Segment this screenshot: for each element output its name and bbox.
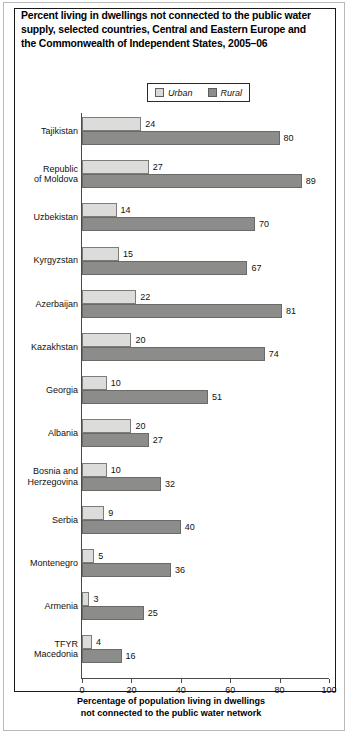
category-label: Georgia (0, 385, 78, 396)
x-tick-label-20: 20 (126, 685, 136, 695)
bar-value-urban: 27 (153, 162, 163, 172)
bar-rural (82, 347, 265, 361)
bar-urban (82, 549, 94, 563)
bar-value-urban: 10 (111, 465, 121, 475)
category-label: Tajikistan (0, 126, 78, 137)
bar-rural (82, 131, 280, 145)
category-label-line: Tajikistan (0, 126, 78, 137)
category-label: Uzbekistan (0, 212, 78, 223)
bar-urban (82, 635, 92, 649)
bar-urban (82, 463, 107, 477)
bar-value-rural: 74 (269, 349, 279, 359)
bar-value-rural: 25 (148, 608, 158, 618)
x-tick-60 (230, 679, 231, 683)
bar-urban (82, 376, 107, 390)
category-label-line: Republic (0, 164, 78, 175)
category-label: Armenia (0, 601, 78, 612)
bar-value-urban: 15 (123, 249, 133, 259)
category-label: Albania (0, 428, 78, 439)
bar-group: Azerbaijan2281 (0, 290, 349, 318)
bar-rural (82, 261, 247, 275)
bar-value-rural: 16 (126, 651, 136, 661)
bar-rural (82, 174, 302, 188)
x-tick-label-80: 80 (275, 685, 285, 695)
bar-rural (82, 520, 181, 534)
category-label-line: Azerbaijan (0, 299, 78, 310)
bar-value-urban: 24 (145, 119, 155, 129)
bar-rural (82, 606, 144, 620)
bar-group: Bosnia andHerzegovina1032 (0, 463, 349, 491)
bar-value-urban: 3 (93, 594, 98, 604)
category-label: Kyrgyzstan (0, 255, 78, 266)
bar-group: Serbia940 (0, 506, 349, 534)
bar-urban (82, 419, 131, 433)
bar-urban (82, 203, 117, 217)
bar-value-urban: 9 (108, 508, 113, 518)
bar-group: Uzbekistan1470 (0, 203, 349, 231)
bar-urban (82, 592, 89, 606)
bar-group: Kazakhstan2074 (0, 333, 349, 361)
category-label-line: Kazakhstan (0, 342, 78, 353)
x-axis-caption-line2: not connected to the public water networ… (10, 708, 332, 720)
bar-group: Montenegro536 (0, 549, 349, 577)
x-tick-label-60: 60 (225, 685, 235, 695)
x-axis-caption: Percentage of population living in dwell… (10, 696, 332, 719)
x-tick-label-100: 100 (321, 685, 336, 695)
bar-value-rural: 32 (165, 479, 175, 489)
bar-urban (82, 160, 149, 174)
bar-group: Armenia325 (0, 592, 349, 620)
x-axis-line (81, 678, 329, 679)
bar-group: Albania2027 (0, 419, 349, 447)
bar-value-urban: 22 (140, 292, 150, 302)
plot-area: 020406080100 Tajikistan2480Republicof Mo… (0, 0, 349, 735)
x-tick-20 (131, 679, 132, 683)
category-label-line: Georgia (0, 385, 78, 396)
bar-value-rural: 27 (153, 435, 163, 445)
bar-urban (82, 290, 136, 304)
x-tick-100 (329, 679, 330, 683)
bar-rural (82, 217, 255, 231)
category-label: Azerbaijan (0, 299, 78, 310)
bar-value-rural: 70 (259, 219, 269, 229)
category-label-line: Herzegovina (0, 477, 78, 488)
bar-urban (82, 117, 141, 131)
category-label: Bosnia andHerzegovina (0, 466, 78, 487)
category-label-line: Bosnia and (0, 466, 78, 477)
bar-value-urban: 10 (111, 378, 121, 388)
bar-rural (82, 304, 282, 318)
x-axis-caption-line1: Percentage of population living in dwell… (10, 696, 332, 708)
bar-value-rural: 36 (175, 565, 185, 575)
category-label: Republicof Moldova (0, 164, 78, 185)
bar-rural (82, 390, 208, 404)
category-label: Montenegro (0, 558, 78, 569)
x-tick-label-0: 0 (79, 685, 84, 695)
bar-urban (82, 506, 104, 520)
category-label-line: Albania (0, 428, 78, 439)
category-label-line: Serbia (0, 515, 78, 526)
bar-rural (82, 477, 161, 491)
x-tick-40 (181, 679, 182, 683)
x-tick-0 (82, 679, 83, 683)
bar-value-urban: 20 (135, 335, 145, 345)
category-label: Serbia (0, 515, 78, 526)
bar-urban (82, 333, 131, 347)
bar-group: Georgia1051 (0, 376, 349, 404)
bar-group: Tajikistan2480 (0, 117, 349, 145)
bar-group: Republicof Moldova2789 (0, 160, 349, 188)
bar-group: Kyrgyzstan1567 (0, 247, 349, 275)
category-label: TFYRMacedonia (0, 639, 78, 660)
category-label-line: Armenia (0, 601, 78, 612)
bar-value-rural: 81 (286, 306, 296, 316)
bar-value-rural: 67 (251, 263, 261, 273)
category-label: Kazakhstan (0, 342, 78, 353)
bar-value-rural: 40 (185, 522, 195, 532)
bar-group: TFYRMacedonia416 (0, 635, 349, 663)
bar-value-rural: 51 (212, 392, 222, 402)
category-label-line: Macedonia (0, 649, 78, 660)
bar-urban (82, 247, 119, 261)
bar-value-rural: 89 (306, 176, 316, 186)
bar-value-urban: 20 (135, 421, 145, 431)
bar-rural (82, 433, 149, 447)
category-label-line: Kyrgyzstan (0, 255, 78, 266)
category-label-line: Uzbekistan (0, 212, 78, 223)
